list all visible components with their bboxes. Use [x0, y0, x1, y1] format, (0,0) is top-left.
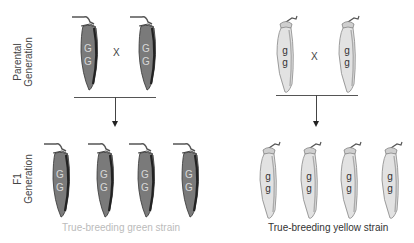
pea-pod-green-icon — [86, 141, 118, 219]
allele-top: g — [333, 46, 361, 56]
down-arrow-icon — [112, 121, 118, 127]
allele-top: G — [44, 170, 76, 180]
allele-top: G — [88, 170, 120, 180]
f1-generation-label: F1 Generation — [12, 149, 36, 209]
green-descent-line — [115, 97, 116, 122]
yellow-f1-pod-2: g g — [296, 140, 324, 220]
allele-top: g — [254, 172, 282, 182]
yellow-cross-line — [276, 95, 358, 96]
allele-bottom: g — [333, 58, 361, 68]
pea-pod-green-icon — [42, 141, 74, 219]
allele-bottom: G — [44, 183, 76, 193]
yellow-f1-pod-3: g g — [336, 140, 364, 220]
pea-pod-green-icon — [171, 141, 203, 219]
parental-label-line1: Parental — [12, 32, 23, 92]
allele-bottom: G — [130, 57, 162, 67]
allele-top: G — [72, 44, 104, 54]
green-parent-pod-2: G G — [128, 14, 160, 92]
allele-bottom: g — [271, 58, 299, 68]
yellow-parent-pod-2: g g — [334, 14, 362, 94]
allele-top: g — [376, 172, 404, 182]
allele-bottom: G — [88, 183, 120, 193]
allele-top: g — [335, 172, 363, 182]
yellow-f1-pod-4: g g — [377, 140, 405, 220]
yellow-f1-pod-1: g g — [255, 140, 283, 220]
allele-bottom: g — [335, 184, 363, 194]
yellow-descent-line — [316, 95, 317, 122]
yellow-strain-caption: True-breeding yellow strain — [268, 222, 388, 233]
allele-bottom: G — [173, 183, 205, 193]
f1-label-line2: Generation — [23, 149, 34, 209]
down-arrow-icon — [313, 121, 319, 127]
parental-label-line2: Generation — [23, 32, 34, 92]
green-f1-pod-3: G G — [127, 141, 159, 219]
allele-bottom: G — [129, 183, 161, 193]
allele-top: G — [130, 44, 162, 54]
cross-symbol-yellow: X — [311, 51, 318, 62]
green-f1-pod-2: G G — [86, 141, 118, 219]
allele-top: g — [271, 46, 299, 56]
yellow-parent-pod-1: g g — [272, 14, 300, 94]
allele-bottom: g — [376, 184, 404, 194]
cross-symbol-green: X — [113, 47, 120, 58]
allele-bottom: g — [295, 184, 323, 194]
allele-top: G — [129, 170, 161, 180]
green-f1-pod-1: G G — [42, 141, 74, 219]
allele-bottom: g — [254, 184, 282, 194]
allele-top: G — [173, 170, 205, 180]
f1-label-line1: F1 — [12, 149, 23, 209]
green-parent-pod-1: G G — [70, 14, 102, 92]
parental-generation-label: Parental Generation — [12, 32, 36, 92]
green-strain-caption: True-breeding green strain — [62, 222, 180, 233]
allele-bottom: G — [72, 57, 104, 67]
allele-top: g — [295, 172, 323, 182]
green-f1-pod-4: G G — [171, 141, 203, 219]
pea-pod-green-icon — [127, 141, 159, 219]
